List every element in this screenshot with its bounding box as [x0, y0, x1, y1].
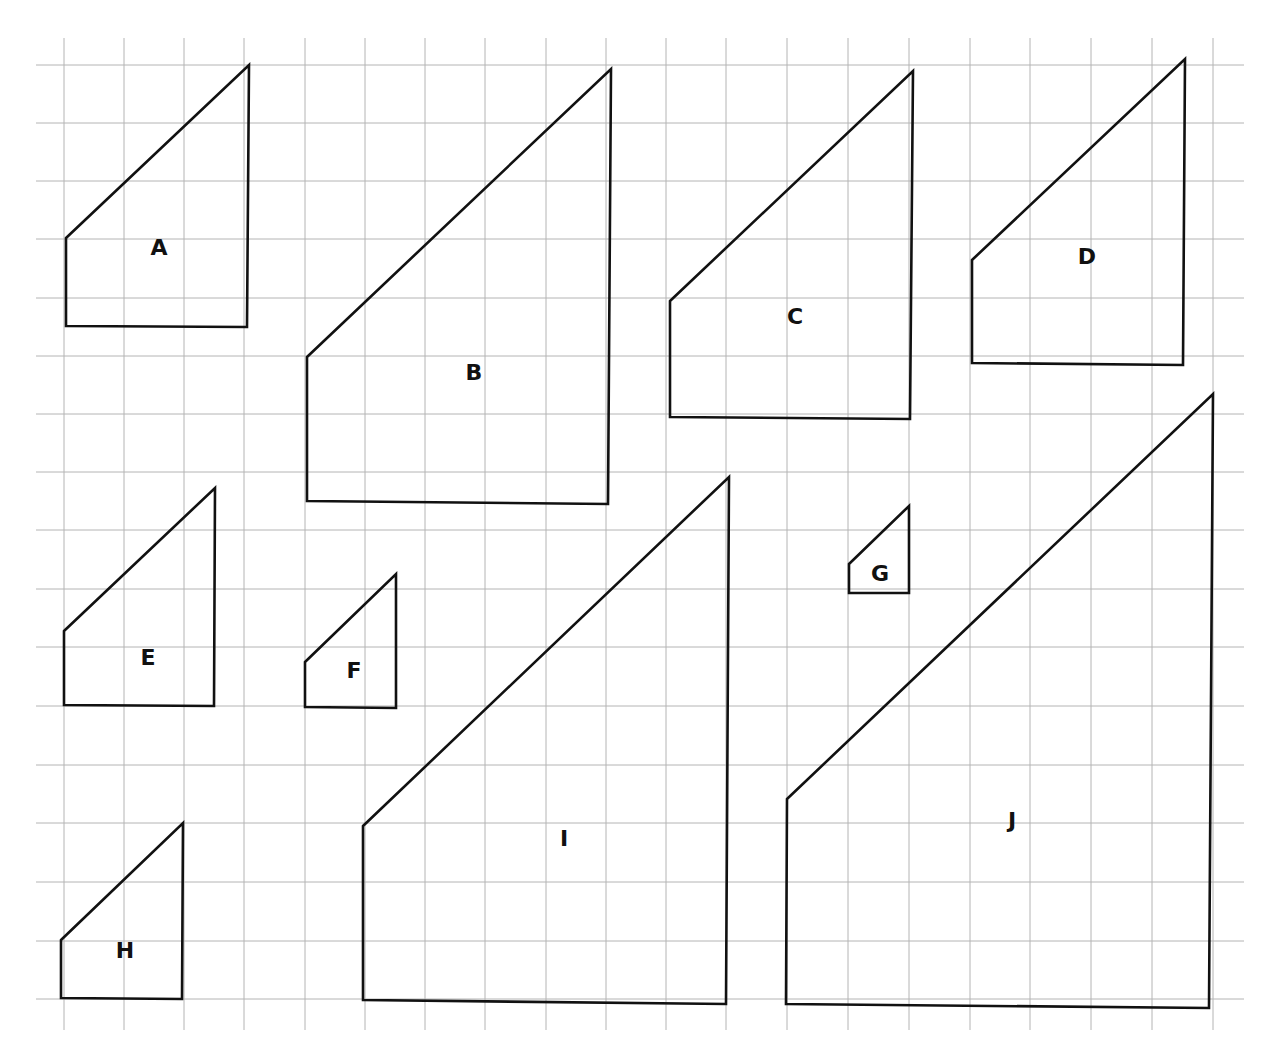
shape-outline [305, 574, 396, 708]
shape-g: G [849, 506, 909, 593]
shapes-layer: ABCDEFGHIJ [61, 59, 1213, 1008]
shape-h: H [61, 823, 183, 999]
shape-outline [61, 823, 183, 999]
shape-outline [786, 394, 1213, 1008]
shape-outline [972, 59, 1185, 365]
shape-e: E [64, 488, 215, 706]
shape-label: C [787, 304, 803, 329]
shape-label: D [1078, 244, 1096, 269]
shape-j: J [786, 394, 1213, 1008]
shape-b: B [307, 69, 611, 504]
shape-a: A [66, 65, 249, 327]
shape-label: F [346, 658, 361, 683]
diagram-canvas: ABCDEFGHIJ [0, 0, 1274, 1060]
shape-label: H [116, 938, 134, 963]
grid [36, 38, 1244, 1030]
shape-outline [64, 488, 215, 706]
shape-outline [66, 65, 249, 327]
shape-label: E [140, 645, 155, 670]
shape-d: D [972, 59, 1185, 365]
shape-outline [307, 69, 611, 504]
shape-label: I [560, 826, 568, 851]
shape-label: A [150, 235, 167, 260]
shape-label: B [466, 360, 483, 385]
shape-f: F [305, 574, 396, 708]
shape-label: G [871, 561, 889, 586]
shape-label: J [1006, 808, 1016, 833]
